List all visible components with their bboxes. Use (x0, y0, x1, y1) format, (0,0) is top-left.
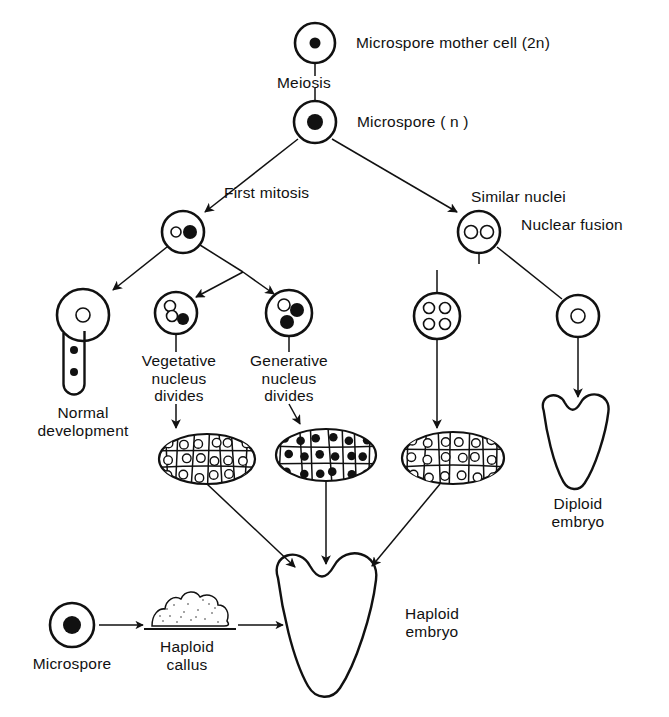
label-generative-nucleus-divides: Generative nucleus divides (238, 352, 340, 405)
connectors (99, 64, 578, 625)
fused-nucleus-cell (557, 295, 599, 337)
diagram-canvas: Microspore mother cell (2n) Meiosis Micr… (0, 0, 669, 717)
label-similar-nuclei: Similar nuclei (471, 188, 566, 206)
embryoid-vegetative (159, 434, 255, 484)
label-vegetative-nucleus-divides: Vegetative nucleus divides (131, 352, 227, 405)
haploid-embryo (277, 553, 377, 696)
label-nuclear-fusion: Nuclear fusion (521, 216, 623, 234)
microspore (294, 101, 336, 143)
label-microspore-mother-cell: Microspore mother cell (2n) (356, 34, 550, 52)
label-first-mitosis: First mitosis (224, 184, 309, 202)
label-normal-development: Normal development (16, 404, 150, 439)
embryoids-layer (159, 429, 504, 484)
two-nuclei-cell-similar (458, 211, 500, 253)
two-nuclei-cell-unequal (162, 211, 204, 253)
label-haploid-callus: Haploid callus (138, 638, 236, 673)
generative-divided-cell (266, 290, 312, 336)
vegetative-divided-cell (155, 292, 197, 334)
cells-layer (50, 23, 599, 647)
pollen-grain-with-tube (57, 289, 109, 341)
diploid-embryo (543, 394, 609, 489)
haploid-callus-shape (144, 592, 236, 629)
label-meiosis: Meiosis (277, 74, 331, 92)
label-diploid-embryo: Diploid embryo (528, 495, 628, 530)
embryoid-generative (276, 429, 376, 481)
label-microspore-n: Microspore ( n ) (357, 113, 469, 131)
embryoid-similar (402, 432, 504, 484)
microspore-bottom (50, 603, 94, 647)
four-nuclei-cell (414, 293, 460, 339)
label-haploid-embryo: Haploid embryo (384, 605, 480, 640)
label-microspore-bottom: Microspore (16, 655, 128, 673)
microspore-mother-cell (295, 23, 335, 63)
